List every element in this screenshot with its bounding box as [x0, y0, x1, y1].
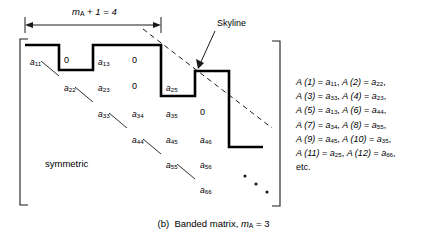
- arrow-head-right: [153, 22, 161, 28]
- storage-etc: etc.: [296, 161, 396, 173]
- matrix-entry-a55: a55: [166, 161, 178, 170]
- right-bracket: [272, 41, 280, 206]
- banded-matrix-figure: mA + 1 = 4 Skyline symmetric a11a13a22a2…: [0, 0, 427, 240]
- dimension-label: mA + 1 = 4: [72, 7, 117, 18]
- storage-line: A (7) = a34, A (8) = a55,: [296, 119, 396, 133]
- matrix-entry-a22: a22: [64, 84, 76, 93]
- storage-line: A (1) = a11, A (2) = a22,: [296, 76, 396, 90]
- matrix-entry-a46: a46: [200, 136, 212, 145]
- ellipsis-dots-icon: [243, 174, 268, 193]
- storage-line: A (9) = a45, A (10) = a35,: [296, 133, 396, 147]
- matrix-entry-a66: a66: [200, 186, 212, 195]
- matrix-entry-a33: a33: [98, 110, 110, 119]
- storage-line: A (11) = a25, A (12) = a66,: [296, 147, 396, 161]
- matrix-entry-a56: a56: [200, 161, 212, 170]
- storage-line: A (3) = a33, A (4) = a23,: [296, 90, 396, 104]
- matrix-entry-a35: a35: [166, 110, 178, 119]
- figure-caption: (b) Banded matrix, mA = 3: [0, 218, 427, 229]
- left-bracket: [20, 39, 28, 205]
- skyline-dashed-line: [143, 29, 272, 128]
- arrow-head-left: [25, 22, 33, 28]
- matrix-entry-a44: a44: [132, 136, 144, 145]
- storage-mapping-list: A (1) = a11, A (2) = a22,A (3) = a33, A …: [296, 76, 396, 173]
- matrix-zero-4: 0: [200, 108, 205, 117]
- matrix-entry-a34: a34: [132, 110, 144, 119]
- skyline-staircase: [25, 45, 263, 147]
- matrix-entry-a11: a11: [30, 58, 41, 67]
- matrix-entry-a25: a25: [166, 84, 178, 93]
- matrix-zero-3: 0: [132, 82, 137, 91]
- symmetric-label: symmetric: [45, 159, 88, 169]
- matrix-zero-2: 0: [132, 56, 137, 65]
- matrix-entry-a45: a45: [166, 136, 178, 145]
- storage-line: A (5) = a13, A (6) = a44,: [296, 104, 396, 118]
- skyline-label: Skyline: [217, 19, 246, 28]
- arrow-head-skyline: [196, 59, 204, 69]
- dimension-arrow: [25, 17, 161, 33]
- matrix-entry-a13: a13: [98, 58, 110, 67]
- matrix-entry-a23: a23: [98, 84, 110, 93]
- skyline-callout-arrow: [196, 31, 215, 69]
- matrix-zero-1: 0: [64, 56, 69, 65]
